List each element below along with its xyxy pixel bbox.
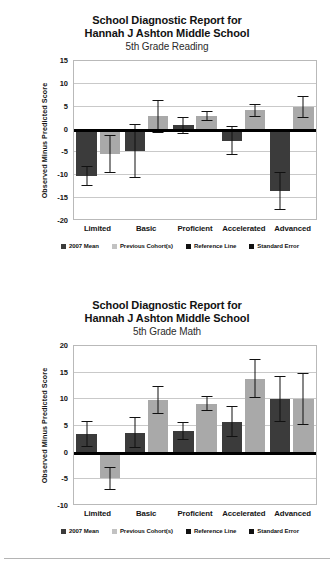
bar-slot [172,346,195,504]
legend-swatch-icon [249,244,254,249]
x-axis-tick-label: Accelerated [219,509,268,518]
error-bar-cap-bottom [104,172,115,173]
error-bar-cap-top [178,117,189,118]
error-bar-cap-top [226,406,237,407]
bar-slot [269,61,292,219]
report-math: School Diagnostic Report for Hannah J As… [0,285,334,571]
legend-label: Reference Line [194,243,236,249]
x-axis-tick-label: Limited [73,224,122,233]
error-bar [255,359,256,397]
y-axis-tick-label: -10 [57,501,68,510]
legend-item: 2007 Mean [61,528,99,534]
legend-swatch-icon [249,529,254,534]
x-axis-tick-label: Proficient [171,509,220,518]
x-axis-tick-label: Basic [122,224,171,233]
error-bar-cap-top [250,104,261,105]
error-bar-cap-top [129,417,140,418]
legend-label: Standard Error [257,528,299,534]
y-axis-tick-label: 10 [60,394,68,403]
page-title-line2: Hannah J Ashton Middle School [0,312,334,325]
plot-area [73,60,317,220]
y-axis-tick-label: -5 [61,474,68,483]
legend-item: Previous Cohort(s) [112,243,173,249]
error-bar-cap-bottom [81,185,92,186]
y-axis-tick-label: -20 [57,216,68,225]
error-bar-cap-bottom [275,421,286,422]
error-bar-cap-bottom [104,489,115,490]
error-bar-cap-bottom [153,132,164,133]
error-bar-cap-top [104,467,115,468]
y-axis-tick-label: 10 [60,78,68,87]
bar-group [268,346,316,504]
y-axis-tick-label: 0 [64,447,68,456]
legend-item: 2007 Mean [61,243,99,249]
x-axis-tick-label: Limited [73,509,122,518]
bar-slot [220,346,243,504]
error-bar-cap-bottom [81,446,92,447]
page-divider [4,558,330,559]
legend-item: Reference Line [186,528,236,534]
y-axis-tick-label: 20 [60,341,68,350]
bar-slot [243,61,266,219]
legend-item: Standard Error [249,528,299,534]
bar-group [268,61,316,219]
bar-slot [292,346,315,504]
bar-slot [147,61,170,219]
legend-item: Standard Error [249,243,299,249]
legend-label: 2007 Mean [69,528,99,534]
plot-area [73,345,317,505]
bar-group [171,61,219,219]
bar-group [171,346,219,504]
error-bar-cap-top [298,373,309,374]
error-bar-cap-bottom [178,133,189,134]
error-bar [183,422,184,440]
report-page: School Diagnostic Report for Hannah J As… [0,0,334,571]
legend-swatch-icon [61,244,66,249]
error-bar-cap-bottom [129,177,140,178]
bar-group [74,61,122,219]
y-axis-tick-label: -5 [61,147,68,156]
bar-slot [98,346,121,504]
y-axis-ticks: 20151050-5-10 [47,345,71,505]
error-bar [86,421,87,447]
bar-slot [147,346,170,504]
error-bar [303,96,304,118]
error-bar [206,396,207,411]
report-title-block-math: School Diagnostic Report for Hannah J As… [0,285,334,339]
error-bar-cap-top [81,421,92,422]
error-bar [134,124,135,178]
legend-label: Standard Error [257,243,299,249]
error-bar [255,104,256,117]
legend-label: Previous Cohort(s) [120,528,173,534]
report-reading: School Diagnostic Report for Hannah J As… [0,0,334,285]
page-title-line2: Hannah J Ashton Middle School [0,27,334,40]
error-bar-cap-top [201,111,212,112]
error-bar-cap-bottom [250,397,261,398]
error-bar-cap-bottom [153,413,164,414]
error-bar [134,417,135,448]
x-axis-tick-label: Advanced [268,509,317,518]
bar-slot [172,61,195,219]
error-bar-cap-top [153,386,164,387]
bar-slot [123,346,146,504]
error-bar-cap-bottom [298,117,309,118]
chart-math: Observed Minus Predicted Score 20151050-… [17,345,317,534]
legend-swatch-icon [186,244,191,249]
y-axis-ticks: 151050-5-10-15-20 [47,60,71,220]
error-bar [86,166,87,186]
bar-group [219,346,267,504]
bar-groups [74,61,316,219]
error-bar-cap-top [153,100,164,101]
x-axis-labels: LimitedBasicProficientAcceleratedAdvance… [73,509,317,518]
error-bar-cap-top [104,135,115,136]
page-subtitle: 5th Grade Math [0,325,334,339]
bar-slot [195,346,218,504]
y-axis-tick-label: 15 [60,56,68,65]
error-bar-cap-bottom [226,154,237,155]
reference-line [74,129,316,132]
error-bar [109,467,110,490]
y-axis-tick-label: 5 [64,101,68,110]
error-bar [303,373,304,425]
y-axis-tick-label: 5 [64,421,68,430]
chart-legend: 2007 MeanPrevious Cohort(s)Reference Lin… [61,528,317,534]
